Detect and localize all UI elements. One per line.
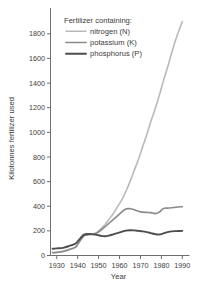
y-axis-tick-label: 400 xyxy=(33,202,45,211)
chart-canvas: 0200400600800100012001400160018001930194… xyxy=(0,0,209,290)
y-axis-tick-label: 1400 xyxy=(29,79,45,88)
y-axis-tick-label: 200 xyxy=(33,226,45,235)
y-axis-tick-label: 1800 xyxy=(29,29,45,38)
y-axis-tick-label: 0 xyxy=(41,251,45,260)
fertilizer-usage-line-chart: 0200400600800100012001400160018001930194… xyxy=(0,0,209,290)
y-axis-tick-label: 800 xyxy=(33,153,45,162)
x-axis-tick-label: 1990 xyxy=(174,261,190,270)
plot-area: 0200400600800100012001400160018001930194… xyxy=(7,8,190,281)
y-axis-title: Kilotonnes fertilizer used xyxy=(7,97,16,180)
y-axis-tick-label: 1200 xyxy=(29,103,45,112)
legend-label-phosphorusp: phosphorus (P) xyxy=(90,49,142,58)
legend-label-nitrogenn: nitrogen (N) xyxy=(90,27,131,36)
series-line-phosphorusp xyxy=(53,230,183,248)
x-axis-title: Year xyxy=(111,272,127,281)
x-axis-tick-label: 1930 xyxy=(49,261,65,270)
x-axis-tick-label: 1970 xyxy=(132,261,148,270)
x-axis-tick-label: 1980 xyxy=(153,261,169,270)
y-axis-tick-label: 1600 xyxy=(29,54,45,63)
x-axis-tick-label: 1960 xyxy=(112,261,128,270)
legend-title: Fertilizer containing: xyxy=(64,16,132,25)
y-axis-tick-label: 600 xyxy=(33,177,45,186)
x-axis-tick-label: 1950 xyxy=(91,261,107,270)
y-axis-tick-label: 1000 xyxy=(29,128,45,137)
legend-label-potassiumk: potassium (K) xyxy=(90,38,137,47)
x-axis-tick-label: 1940 xyxy=(70,261,86,270)
